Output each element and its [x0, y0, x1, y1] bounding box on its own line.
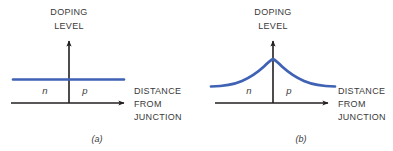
- panel-a-y-axis-label-line2: LEVEL: [54, 21, 84, 31]
- panel-a-x-axis-label-line2: FROM: [134, 99, 162, 109]
- panel-b-region-label-p: p: [285, 85, 291, 96]
- panel-a: DOPING LEVEL n p DISTANCE FROM JUNCTION …: [11, 7, 182, 144]
- panel-a-y-axis-label-line1: DOPING: [50, 7, 87, 17]
- panel-b-x-axis-label-line3: JUNCTION: [338, 112, 386, 122]
- panel-b-x-axis-label-line1: DISTANCE: [338, 86, 385, 96]
- panel-b-caption: (b): [296, 134, 307, 144]
- panel-a-caption: (a): [92, 134, 103, 144]
- panel-b-y-axis-label-line1: DOPING: [254, 7, 291, 17]
- panel-b: DOPING LEVEL n p DISTANCE FROM JUNCTION …: [211, 7, 386, 144]
- panel-a-region-label-n: n: [42, 85, 47, 96]
- doping-profile-figure: DOPING LEVEL n p DISTANCE FROM JUNCTION …: [0, 0, 393, 151]
- panel-b-region-label-n: n: [246, 85, 251, 96]
- figure-canvas: DOPING LEVEL n p DISTANCE FROM JUNCTION …: [0, 0, 393, 151]
- panel-a-region-label-p: p: [81, 85, 87, 96]
- panel-b-x-axis-label-line2: FROM: [338, 99, 366, 109]
- panel-a-x-axis-label-line1: DISTANCE: [134, 86, 181, 96]
- panel-a-x-axis-label-line3: JUNCTION: [134, 112, 182, 122]
- panel-b-y-axis-label-line2: LEVEL: [258, 21, 288, 31]
